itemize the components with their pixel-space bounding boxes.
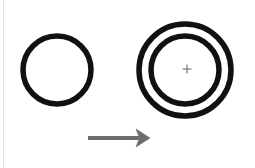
figure-canvas (0, 0, 255, 168)
center-crosshair-plus-icon (183, 65, 192, 74)
source-circle (23, 36, 91, 104)
target-inner-circle (151, 36, 219, 104)
transformation-arrow-icon (88, 129, 150, 147)
diagram-svg (0, 0, 255, 168)
